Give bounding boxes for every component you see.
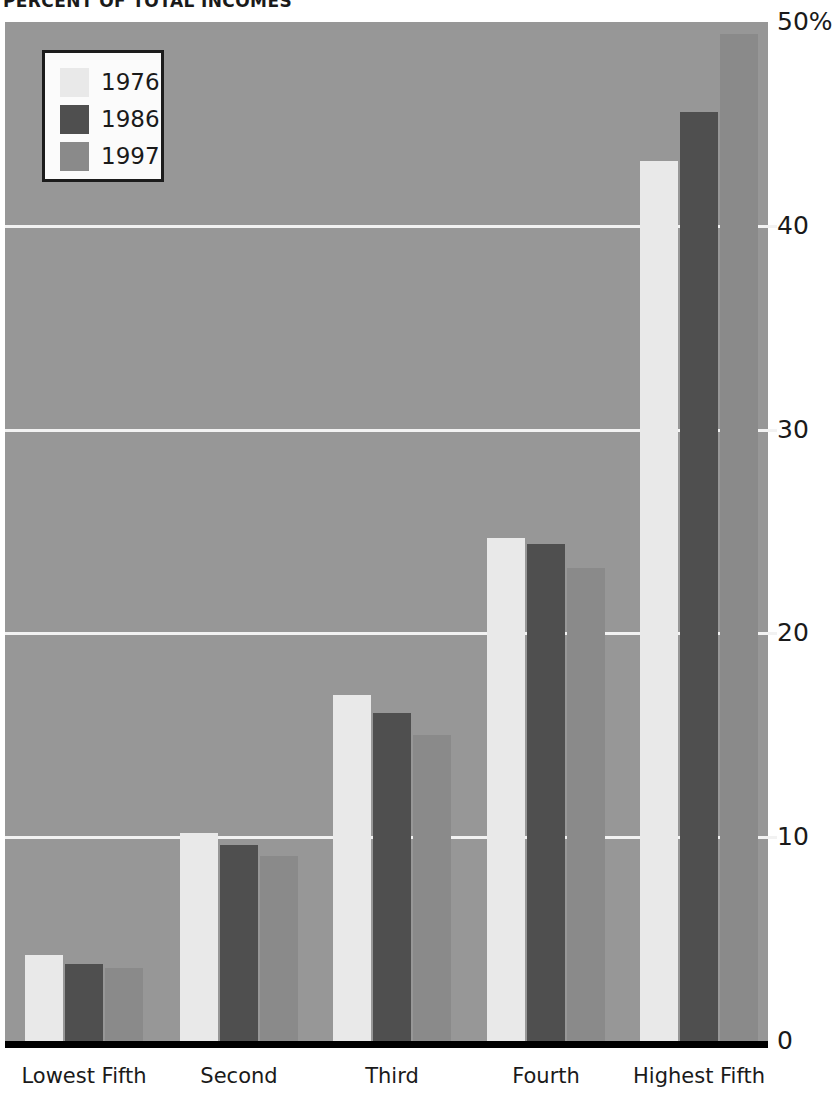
x-axis-label-highest-fifth: Highest Fifth: [633, 1063, 765, 1089]
chart-title: PERCENT OF TOTAL INCOMES: [3, 0, 292, 11]
legend-swatch-icon-1997: [60, 142, 89, 171]
x-axis-baseline: [5, 1041, 768, 1048]
bar-1976-fourth: [487, 538, 525, 1041]
y-axis-tick-mark-40: [768, 225, 777, 228]
y-axis-tick-label-0: 0: [777, 1028, 793, 1053]
legend-item-1997: 1997: [60, 141, 160, 171]
y-axis-tick-label-10: 10: [777, 824, 809, 849]
bar-1986-lowest-fifth: [65, 964, 103, 1041]
legend-swatch-icon-1976: [60, 68, 89, 97]
x-axis-label-third: Third: [365, 1063, 419, 1089]
bar-1986-third: [373, 713, 411, 1041]
y-axis-tick-mark-10: [768, 836, 777, 839]
y-axis-tick-label-30: 30: [777, 417, 809, 442]
bar-1997-highest-fifth: [720, 34, 758, 1041]
x-axis-label-fourth: Fourth: [512, 1063, 580, 1089]
legend-label-1976: 1976: [101, 71, 160, 94]
legend-label-1997: 1997: [101, 145, 160, 168]
x-axis-label-lowest-fifth: Lowest Fifth: [21, 1063, 146, 1089]
bar-1986-fourth: [527, 544, 565, 1041]
bar-1997-third: [413, 735, 451, 1041]
bar-1986-highest-fifth: [680, 112, 718, 1041]
bar-1976-lowest-fifth: [25, 955, 63, 1041]
bar-1997-second: [260, 856, 298, 1041]
legend-item-1976: 1976: [60, 67, 160, 97]
legend-swatch-icon-1986: [60, 105, 89, 134]
legend-label-1986: 1986: [101, 108, 160, 131]
bar-1976-third: [333, 695, 371, 1041]
bar-1997-fourth: [567, 568, 605, 1041]
y-axis-tick-mark-20: [768, 632, 777, 635]
x-axis-label-second: Second: [200, 1063, 277, 1089]
y-axis-tick-label-50: 50%: [777, 9, 833, 34]
y-axis-tick-label-40: 40: [777, 213, 809, 238]
bar-1986-second: [220, 845, 258, 1041]
bar-1997-lowest-fifth: [105, 968, 143, 1041]
y-axis-tick-label-20: 20: [777, 620, 809, 645]
legend-item-1986: 1986: [60, 104, 160, 134]
bar-1976-second: [180, 833, 218, 1041]
chart-legend: 1976 1986 1997: [42, 50, 164, 182]
y-axis-tick-mark-30: [768, 429, 777, 432]
bar-1976-highest-fifth: [640, 161, 678, 1041]
